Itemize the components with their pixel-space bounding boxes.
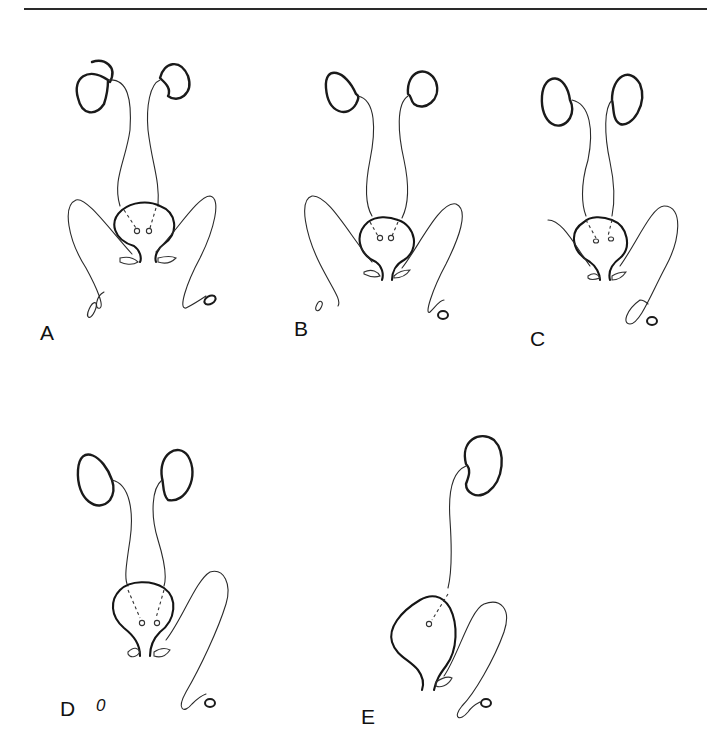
- kidney-right: [160, 64, 189, 99]
- panel-label-e: E: [361, 706, 375, 727]
- panel-d-drawing: [78, 450, 228, 709]
- panel-e-drawing: [391, 436, 506, 718]
- panel-label-a: A: [40, 322, 54, 343]
- panel-label-d: D: [60, 698, 75, 719]
- panel-b-drawing: [305, 72, 463, 319]
- panel-label-b: B: [294, 318, 308, 339]
- kidney-left: [77, 74, 108, 112]
- panel-c-drawing: [542, 75, 678, 325]
- panel-a-drawing: [68, 61, 217, 319]
- urogenital-diagram: [0, 0, 707, 730]
- panel-d-stray-mark: 0: [96, 697, 105, 714]
- bladder: [114, 203, 174, 262]
- panel-label-c: C: [530, 328, 545, 349]
